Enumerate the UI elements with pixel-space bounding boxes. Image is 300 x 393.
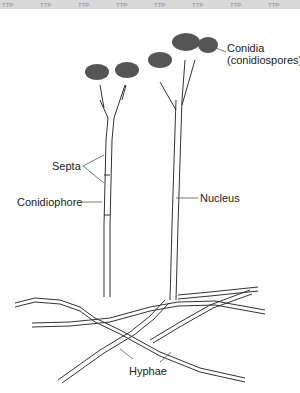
label-septa: Septa [52,160,81,172]
leader-lines [81,48,226,362]
label-conidia: Conidia [227,42,264,54]
label-conidiospores: (conidiospores) [227,54,300,66]
conidiophore-right [160,60,195,300]
label-nucleus: Nucleus [200,192,240,204]
conidiophore-left [100,85,126,297]
label-hyphae: Hyphae [129,365,167,377]
label-conidiophore: Conidiophore [17,196,82,208]
conidia-brushes [85,33,218,80]
